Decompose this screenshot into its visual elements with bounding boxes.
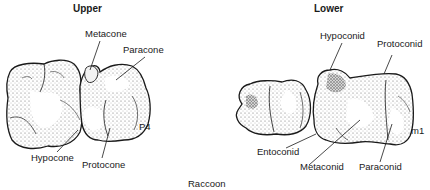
lower-panel-title: Lower (314, 3, 343, 14)
label-entoconid: Entoconid (257, 146, 299, 157)
label-protocone: Protocone (82, 159, 125, 170)
lower-m1-drawing (313, 69, 413, 144)
tooth-label-m1: m1 (411, 125, 424, 136)
label-protoconid: Protoconid (377, 38, 422, 49)
upper-panel-title: Upper (73, 3, 102, 14)
label-metaconid: Metaconid (300, 161, 344, 172)
label-hypocone: Hypocone (31, 152, 74, 163)
label-paracone: Paracone (123, 44, 164, 55)
lower-left-tooth-drawing (236, 80, 310, 135)
upper-molar-drawing (7, 60, 83, 148)
tooth-label-p4: P4 (139, 121, 151, 132)
label-hypoconid: Hypoconid (320, 30, 365, 41)
label-paraconid: Paraconid (359, 161, 402, 172)
figure-caption: Raccoon (188, 178, 226, 189)
label-metacone: Metacone (85, 28, 127, 39)
